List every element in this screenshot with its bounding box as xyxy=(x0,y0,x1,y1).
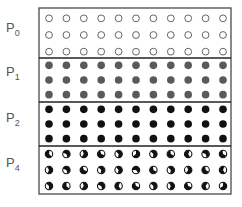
dot xyxy=(63,15,70,22)
dot xyxy=(219,166,226,173)
dot xyxy=(115,76,123,84)
dot xyxy=(185,182,192,189)
dot xyxy=(167,135,175,143)
dot xyxy=(97,135,105,143)
dot xyxy=(184,150,191,157)
dot xyxy=(115,150,122,157)
dot xyxy=(185,166,192,173)
dot xyxy=(80,135,88,143)
dot xyxy=(63,150,70,157)
dot xyxy=(115,182,122,189)
dot xyxy=(63,182,70,189)
dot xyxy=(167,182,174,189)
dot xyxy=(97,106,105,114)
dot xyxy=(202,91,210,99)
dot xyxy=(150,62,158,70)
dot xyxy=(219,135,227,143)
dot xyxy=(184,62,192,70)
dot xyxy=(133,15,140,22)
dot xyxy=(115,120,123,128)
dot xyxy=(202,135,210,143)
dot xyxy=(98,150,105,157)
dot xyxy=(167,48,174,55)
dot xyxy=(63,120,71,128)
dot xyxy=(132,150,139,157)
dot xyxy=(202,62,210,70)
dot xyxy=(219,106,227,114)
dot xyxy=(202,182,209,189)
dot xyxy=(115,62,123,70)
dot xyxy=(63,76,71,84)
dot xyxy=(167,62,175,70)
dot xyxy=(115,48,122,55)
dot xyxy=(97,62,105,70)
dot xyxy=(80,106,88,114)
dot xyxy=(97,76,105,84)
dot xyxy=(167,106,175,114)
dot xyxy=(98,32,105,39)
dot xyxy=(45,91,53,99)
dot xyxy=(202,120,210,128)
dot xyxy=(80,120,88,128)
dot xyxy=(184,76,192,84)
dot xyxy=(202,150,209,157)
dot xyxy=(46,32,53,39)
dot xyxy=(115,135,123,143)
dot xyxy=(132,76,140,84)
dot xyxy=(80,150,87,157)
dot xyxy=(45,76,53,84)
dot xyxy=(97,91,105,99)
dot xyxy=(150,166,157,173)
dot xyxy=(45,120,53,128)
dot xyxy=(63,91,71,99)
dot xyxy=(184,91,192,99)
dot xyxy=(46,48,53,55)
dot xyxy=(150,106,158,114)
dot xyxy=(115,15,122,22)
dot xyxy=(150,182,157,189)
dot xyxy=(63,166,70,173)
dot xyxy=(167,120,175,128)
dot xyxy=(132,135,140,143)
dot xyxy=(80,48,87,55)
dot xyxy=(132,166,139,173)
dot xyxy=(63,106,71,114)
dot xyxy=(185,32,192,39)
dot xyxy=(115,32,122,39)
dot xyxy=(185,15,192,22)
dot xyxy=(220,48,227,55)
dot xyxy=(132,62,140,70)
dot xyxy=(63,48,70,55)
dot xyxy=(185,48,192,55)
dot xyxy=(219,76,227,84)
dot xyxy=(98,15,105,22)
dot xyxy=(98,48,105,55)
dot xyxy=(219,150,226,157)
dot xyxy=(45,106,53,114)
dot xyxy=(115,166,122,173)
dot xyxy=(80,32,87,39)
dot xyxy=(219,182,226,189)
dot xyxy=(202,166,209,173)
dot xyxy=(115,91,123,99)
dot xyxy=(150,120,158,128)
dot xyxy=(45,62,53,70)
dot xyxy=(132,182,139,189)
dot xyxy=(45,135,53,143)
dot xyxy=(167,32,174,39)
dot xyxy=(63,135,71,143)
dot xyxy=(219,120,227,128)
dot xyxy=(97,120,105,128)
dot xyxy=(167,150,174,157)
dot xyxy=(202,76,210,84)
dot xyxy=(184,120,192,128)
dot xyxy=(219,91,227,99)
dot xyxy=(80,166,87,173)
dot xyxy=(184,106,192,114)
dot xyxy=(202,15,209,22)
dot xyxy=(150,48,157,55)
dot xyxy=(184,135,192,143)
dot xyxy=(202,32,209,39)
dot xyxy=(45,182,52,189)
dot xyxy=(98,182,105,189)
